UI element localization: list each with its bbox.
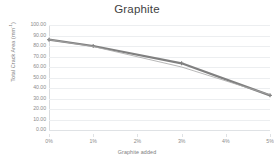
y-axis-tick-label: 50.00 bbox=[2, 75, 46, 80]
x-axis-tick-labels: 0%1%2%3%4%5% bbox=[49, 134, 270, 144]
x-axis-tick-mark bbox=[137, 134, 138, 137]
y-axis-tick-label: 100.00 bbox=[2, 22, 46, 27]
y-axis-tick-label: 20.00 bbox=[2, 106, 46, 111]
x-axis-tick-mark bbox=[270, 134, 271, 137]
x-axis-tick-label: 0% bbox=[37, 138, 61, 144]
plot-area bbox=[49, 25, 270, 130]
gridline bbox=[49, 130, 270, 131]
x-axis-tick-mark bbox=[49, 134, 50, 137]
y-axis-tick-label: 0.00 bbox=[2, 127, 46, 132]
y-axis-tick-label: 30.00 bbox=[2, 96, 46, 101]
y-axis-tick-label: 70.00 bbox=[2, 54, 46, 59]
x-axis-title: Graphite added bbox=[0, 149, 274, 155]
x-axis-tick-mark bbox=[182, 134, 183, 137]
y-axis-tick-labels: 100.0090.0080.0070.0060.0050.0040.0030.0… bbox=[0, 25, 46, 130]
data-line-series-2 bbox=[49, 40, 270, 95]
series-layer bbox=[49, 25, 270, 130]
y-axis-tick-label: 80.00 bbox=[2, 43, 46, 48]
x-axis-tick-label: 4% bbox=[214, 138, 238, 144]
x-axis-tick-label: 1% bbox=[81, 138, 105, 144]
y-axis-tick-label: 60.00 bbox=[2, 64, 46, 69]
x-axis-tick-mark bbox=[93, 134, 94, 137]
x-axis-tick-label: 5% bbox=[258, 138, 274, 144]
x-axis-tick-mark bbox=[226, 134, 227, 137]
y-axis-tick-label: 40.00 bbox=[2, 85, 46, 90]
chart-container: Graphite Total Crack Area (mm-1) 100.009… bbox=[0, 0, 274, 162]
x-axis-tick-label: 2% bbox=[125, 138, 149, 144]
chart-title: Graphite bbox=[0, 3, 274, 15]
data-line-series-1 bbox=[49, 40, 270, 96]
x-axis-tick-label: 3% bbox=[170, 138, 194, 144]
y-axis-tick-label: 90.00 bbox=[2, 33, 46, 38]
y-axis-tick-label: 10.00 bbox=[2, 117, 46, 122]
